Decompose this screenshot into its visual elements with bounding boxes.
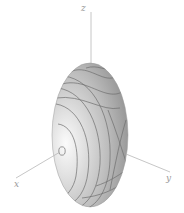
x-axis (16, 152, 60, 178)
z-axis-label: z (80, 3, 86, 13)
y-axis (126, 154, 170, 172)
y-axis-label: y (165, 173, 172, 183)
ellipsoid-surface (52, 63, 128, 207)
ellipsoid-plot: z x y (0, 0, 184, 213)
x-axis-label: x (14, 179, 19, 189)
